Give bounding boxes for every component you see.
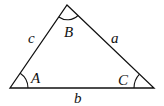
vertex-label-C: C (118, 72, 129, 88)
vertex-label-B: B (64, 24, 73, 40)
angle-arc-A (20, 73, 28, 88)
triangle-diagram: c B a A C b (0, 0, 164, 106)
side-label-a: a (111, 30, 119, 46)
side-label-c: c (28, 30, 35, 46)
vertex-label-A: A (30, 70, 41, 86)
angle-arc-C (134, 74, 140, 88)
angle-arc-B (59, 16, 78, 20)
side-label-b: b (74, 90, 82, 106)
